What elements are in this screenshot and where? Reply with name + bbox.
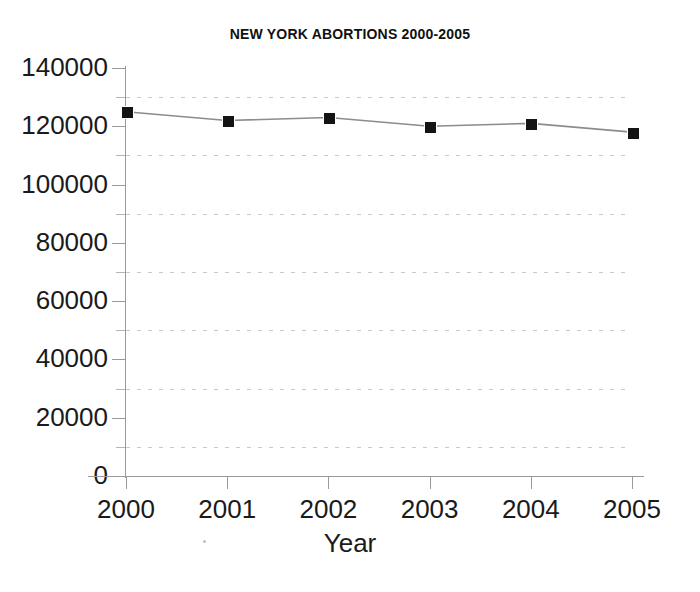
chart-container: NEW YORK ABORTIONS 2000-2005 02000040000… [0, 0, 700, 592]
data-point-marker [121, 106, 134, 119]
data-point-marker [627, 127, 640, 140]
data-point-marker [424, 121, 437, 134]
artifact-speck [203, 540, 206, 543]
series-line [0, 0, 700, 592]
data-point-marker [525, 118, 538, 131]
data-point-marker [323, 112, 336, 125]
data-point-marker [222, 115, 235, 128]
